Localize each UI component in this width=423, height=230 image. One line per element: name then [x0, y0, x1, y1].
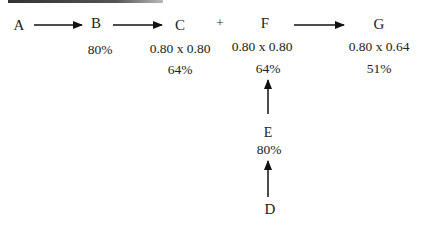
- node-c-label: C: [175, 18, 185, 33]
- node-c-percent: 64%: [168, 63, 193, 77]
- node-f-percent: 64%: [256, 62, 281, 76]
- node-b-percent: 80%: [88, 43, 113, 57]
- node-f-label: F: [261, 16, 269, 31]
- node-c-calc: 0.80 x 0.80: [150, 42, 211, 56]
- node-e-percent: 80%: [257, 143, 282, 157]
- arrows-layer: [0, 0, 423, 230]
- node-g-percent: 51%: [367, 62, 392, 76]
- node-f-calc: 0.80 x 0.80: [232, 40, 293, 54]
- node-d-label: D: [265, 202, 276, 217]
- node-g-label: G: [374, 17, 385, 32]
- node-a-label: A: [14, 18, 25, 33]
- plus-operator: +: [216, 15, 223, 30]
- node-g-calc: 0.80 x 0.64: [349, 40, 410, 54]
- node-e-label: E: [264, 125, 273, 140]
- node-b-label: B: [91, 16, 101, 31]
